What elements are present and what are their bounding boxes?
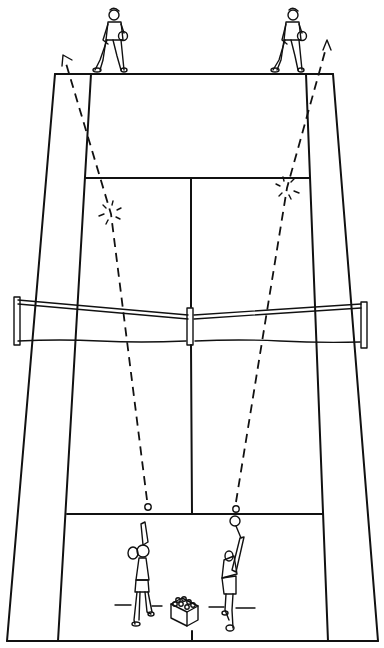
tennis-drill-diagram: Tennis doubles drill diagram xyxy=(0,0,384,648)
player-near-right xyxy=(209,516,255,631)
ball-right-icon xyxy=(233,506,239,512)
ball-path-left xyxy=(65,60,147,500)
ball-paths xyxy=(62,40,331,512)
ball-basket-icon xyxy=(171,597,198,626)
right-doubles-sideline xyxy=(333,74,378,641)
near-center-service-line xyxy=(191,345,192,514)
ball-left-icon xyxy=(145,504,151,510)
left-doubles-sideline xyxy=(7,74,55,641)
player-near-left xyxy=(115,522,162,626)
court-drawing xyxy=(0,0,384,648)
ball-path-right xyxy=(236,48,326,502)
player-far-right xyxy=(271,8,307,72)
player-far-left xyxy=(93,8,128,72)
right-singles-sideline xyxy=(306,74,328,641)
arrowhead-left-icon xyxy=(62,55,72,66)
center-strap xyxy=(187,308,193,345)
court-lines xyxy=(7,74,378,641)
arrowhead-right-icon xyxy=(323,40,331,50)
left-singles-sideline xyxy=(58,74,91,641)
right-net-post xyxy=(361,302,367,348)
